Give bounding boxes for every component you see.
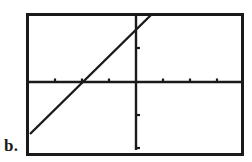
figure-panel: b. xyxy=(0,0,252,162)
graph-screen xyxy=(0,0,252,162)
